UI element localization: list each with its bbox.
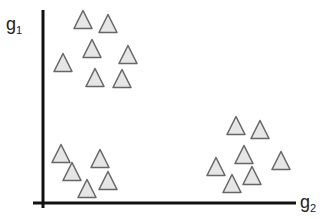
triangle-marker bbox=[54, 54, 72, 72]
triangle-marker bbox=[272, 152, 290, 170]
triangle-marker bbox=[74, 11, 92, 29]
scatter-plot: g1 g2 bbox=[0, 0, 325, 219]
x-axis-label: g2 bbox=[300, 192, 316, 214]
triangle-marker bbox=[207, 158, 225, 176]
triangle-marker bbox=[235, 146, 253, 164]
triangle-marker bbox=[251, 121, 269, 139]
cluster-bottom-right bbox=[207, 117, 290, 193]
triangle-marker bbox=[119, 46, 137, 64]
triangle-marker bbox=[52, 145, 70, 163]
triangle-marker bbox=[99, 15, 117, 33]
cluster-bottom-left bbox=[52, 145, 117, 198]
triangle-marker bbox=[243, 167, 261, 185]
triangle-marker bbox=[78, 180, 96, 198]
triangle-marker bbox=[223, 175, 241, 193]
triangle-marker bbox=[83, 40, 101, 58]
triangle-marker bbox=[227, 117, 245, 135]
triangle-marker bbox=[91, 150, 109, 168]
triangle-marker bbox=[86, 69, 104, 87]
triangle-marker bbox=[113, 70, 131, 88]
cluster-top-left bbox=[54, 11, 137, 88]
triangle-marker bbox=[63, 163, 81, 181]
triangle-marker bbox=[99, 172, 117, 190]
y-axis-label: g1 bbox=[6, 14, 22, 36]
data-points bbox=[52, 11, 290, 198]
